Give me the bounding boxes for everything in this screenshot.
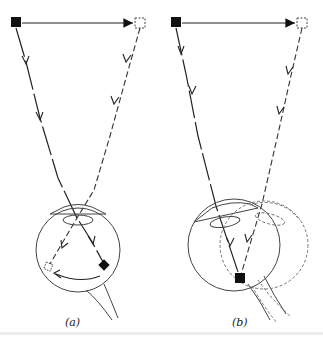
dashed-ray	[50, 28, 140, 264]
retinal-image-motion-arrow	[56, 274, 100, 280]
retinal-image-filled	[235, 273, 245, 283]
eye-movement-diagram	[0, 0, 323, 347]
object-start-square	[171, 17, 181, 27]
lens	[209, 214, 240, 229]
panel-a	[11, 17, 145, 320]
scan-artifact-line	[0, 332, 323, 335]
object-end-square-dashed	[135, 18, 145, 28]
dashed-ray	[240, 28, 302, 278]
optic-nerve	[86, 284, 118, 320]
retinal-image-dashed	[44, 262, 53, 271]
caption-b: (b)	[232, 316, 248, 329]
solid-ray	[16, 28, 103, 262]
retinal-image-filled	[98, 259, 109, 270]
panel-b	[171, 17, 308, 322]
solid-ray	[176, 28, 240, 278]
lens-rotated-dashed	[254, 210, 286, 227]
optic-nerve	[248, 276, 286, 320]
optic-nerve-rotated-dashed	[252, 280, 290, 322]
cornea	[194, 203, 258, 222]
object-end-square-dashed	[297, 18, 307, 28]
caption-a: (a)	[65, 316, 80, 329]
eyeball-rotated-dashed	[220, 201, 308, 289]
object-start-square	[11, 17, 21, 27]
